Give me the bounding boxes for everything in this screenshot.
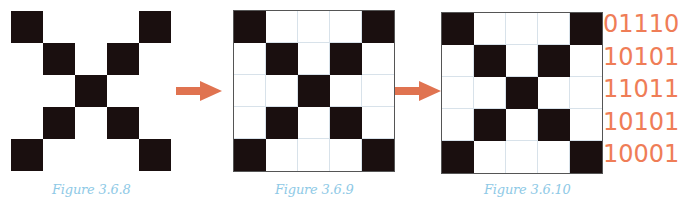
empty-cell [11, 107, 43, 139]
empty-cell [362, 43, 394, 75]
filled-cell [442, 141, 474, 173]
filled-cell [234, 139, 266, 171]
empty-cell [107, 139, 139, 171]
empty-cell [75, 139, 107, 171]
binary-row: 10101 [603, 41, 679, 74]
empty-cell [506, 13, 538, 45]
empty-cell [570, 45, 602, 77]
filled-cell [75, 75, 107, 107]
empty-cell [11, 75, 43, 107]
empty-cell [570, 77, 602, 109]
empty-cell [43, 75, 75, 107]
empty-cell [474, 13, 506, 45]
binary-row: 01110 [603, 8, 679, 41]
filled-cell [107, 43, 139, 75]
empty-cell [298, 11, 330, 43]
empty-cell [506, 141, 538, 173]
filled-cell [570, 13, 602, 45]
pixel-grid-x-pattern [11, 11, 171, 171]
empty-cell [298, 139, 330, 171]
filled-cell [266, 43, 298, 75]
empty-cell [442, 109, 474, 141]
binary-encoding: 01110 10101 11011 10101 10001 [603, 8, 679, 171]
filled-cell [330, 107, 362, 139]
empty-cell [298, 107, 330, 139]
filled-cell [538, 109, 570, 141]
empty-cell [474, 77, 506, 109]
filled-cell [43, 107, 75, 139]
empty-cell [506, 109, 538, 141]
filled-cell [139, 11, 171, 43]
empty-cell [538, 13, 570, 45]
empty-cell [139, 43, 171, 75]
binary-row: 11011 [603, 73, 679, 106]
filled-cell [570, 141, 602, 173]
filled-cell [11, 139, 43, 171]
empty-cell [107, 11, 139, 43]
empty-cell [506, 45, 538, 77]
empty-cell [11, 43, 43, 75]
empty-cell [266, 75, 298, 107]
empty-cell [538, 141, 570, 173]
filled-cell [107, 107, 139, 139]
empty-cell [474, 141, 506, 173]
empty-cell [75, 107, 107, 139]
right-arrow-icon [395, 81, 441, 101]
filled-cell [506, 77, 538, 109]
empty-cell [234, 75, 266, 107]
empty-cell [266, 139, 298, 171]
binary-row: 10001 [603, 138, 679, 171]
empty-cell [139, 107, 171, 139]
empty-cell [234, 107, 266, 139]
empty-cell [266, 11, 298, 43]
binary-row: 10101 [603, 106, 679, 139]
filled-cell [11, 11, 43, 43]
empty-cell [570, 109, 602, 141]
empty-cell [298, 43, 330, 75]
empty-cell [538, 77, 570, 109]
empty-cell [442, 77, 474, 109]
filled-cell [330, 43, 362, 75]
filled-cell [538, 45, 570, 77]
pixel-grid-with-lines [441, 12, 603, 174]
filled-cell [474, 45, 506, 77]
empty-cell [362, 75, 394, 107]
filled-cell [43, 43, 75, 75]
filled-cell [298, 75, 330, 107]
filled-cell [362, 139, 394, 171]
empty-cell [442, 45, 474, 77]
empty-cell [330, 139, 362, 171]
figure-caption: Figure 3.6.8 [52, 182, 131, 197]
filled-cell [266, 107, 298, 139]
empty-cell [75, 43, 107, 75]
filled-cell [474, 109, 506, 141]
right-arrow-icon [176, 81, 222, 101]
empty-cell [75, 11, 107, 43]
empty-cell [330, 75, 362, 107]
empty-cell [362, 107, 394, 139]
filled-cell [362, 11, 394, 43]
filled-cell [442, 13, 474, 45]
empty-cell [234, 43, 266, 75]
pixel-grid-with-lines [233, 10, 395, 172]
filled-cell [139, 139, 171, 171]
empty-cell [330, 11, 362, 43]
empty-cell [107, 75, 139, 107]
filled-cell [234, 11, 266, 43]
figure-caption: Figure 3.6.10 [484, 182, 571, 197]
empty-cell [43, 11, 75, 43]
empty-cell [139, 75, 171, 107]
figure-caption: Figure 3.6.9 [275, 182, 354, 197]
empty-cell [43, 139, 75, 171]
